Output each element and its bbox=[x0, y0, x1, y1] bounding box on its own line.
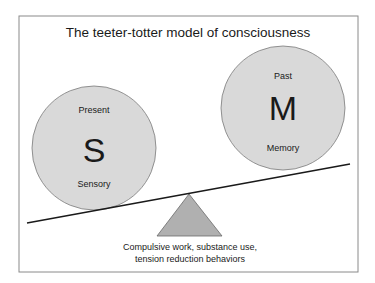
fulcrum-caption-line1: Compulsive work, substance use, bbox=[123, 242, 257, 252]
memory-top-label: Past bbox=[274, 71, 293, 81]
sensory-circle: Present S Sensory bbox=[32, 86, 156, 210]
memory-circle: Past M Memory bbox=[221, 46, 345, 170]
sensory-top-label: Present bbox=[78, 105, 110, 115]
diagram-title: The teeter-totter model of consciousness bbox=[66, 25, 311, 40]
memory-letter: M bbox=[269, 89, 297, 127]
fulcrum-caption-line2: tension reduction behaviors bbox=[135, 254, 246, 264]
teeter-totter-diagram: The teeter-totter model of consciousness… bbox=[0, 0, 375, 283]
memory-bottom-label: Memory bbox=[267, 143, 300, 153]
sensory-letter: S bbox=[83, 131, 106, 169]
sensory-bottom-label: Sensory bbox=[77, 179, 111, 189]
